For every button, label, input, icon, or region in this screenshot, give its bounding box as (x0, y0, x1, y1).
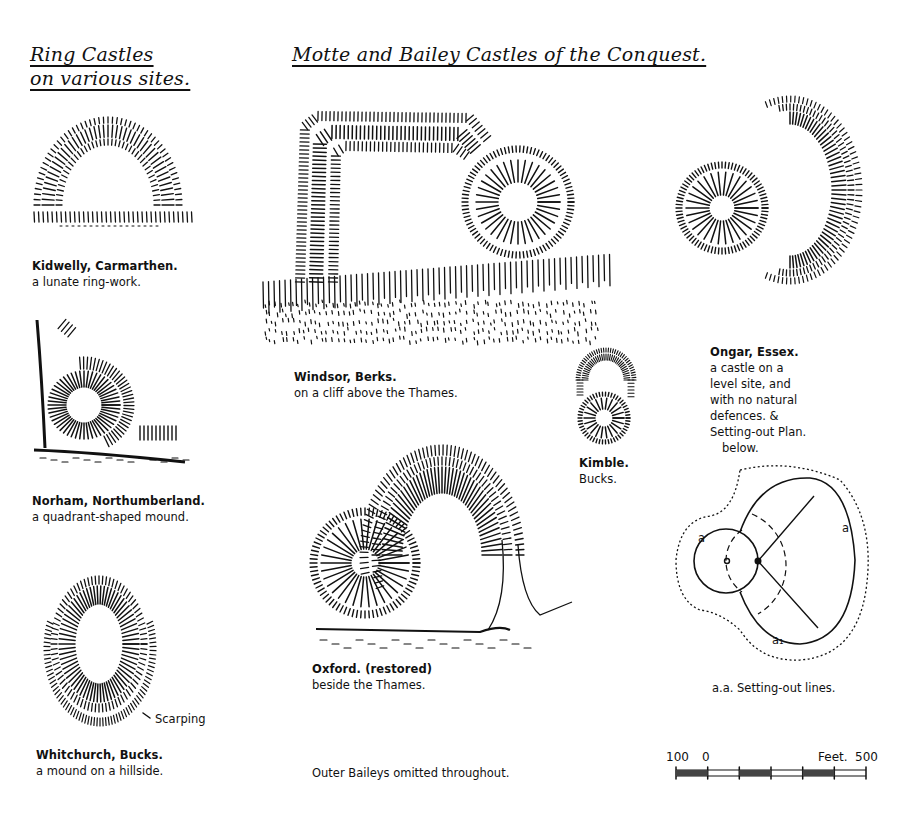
caption-windsor-title: Windsor, Berks. (294, 369, 458, 385)
scale-bar (676, 767, 866, 779)
label-a1-bottom: a₁ (772, 632, 784, 648)
setting-out-plan (676, 466, 868, 660)
caption-setting-out-text: a.a. Setting-out lines. (712, 680, 836, 696)
scale-label-unit: Feet. (818, 750, 848, 764)
caption-whitchurch-subtitle: a mound on a hillside. (36, 763, 163, 779)
footer-note: Outer Baileys omitted throughout. (312, 766, 509, 780)
caption-setting-out: a.a. Setting-out lines. (712, 680, 836, 696)
norham-plan (34, 319, 189, 462)
caption-oxford-subtitle: beside the Thames. (312, 677, 432, 693)
caption-windsor-subtitle: on a cliff above the Thames. (294, 385, 458, 401)
annotation-scarping: Scarping (155, 711, 205, 727)
caption-norham: Norham, Northumberland. a quadrant-shape… (32, 493, 205, 525)
caption-windsor: Windsor, Berks. on a cliff above the Tha… (294, 369, 458, 401)
caption-kimble-subtitle: Bucks. (579, 471, 629, 487)
caption-oxford-title: Oxford. (restored) (312, 661, 432, 677)
caption-ongar-line1: a castle on a (710, 360, 806, 376)
caption-kidwelly: Kidwelly, Carmarthen. a lunate ring-work… (32, 258, 178, 290)
caption-ongar-line6: below. (710, 440, 806, 456)
caption-ongar-line4: defences. & (710, 408, 806, 424)
caption-ongar-title: Ongar, Essex. (710, 344, 806, 360)
caption-whitchurch: Whitchurch, Bucks. a mound on a hillside… (36, 747, 163, 779)
scale-label-0: 0 (702, 750, 710, 764)
caption-kimble: Kimble. Bucks. (579, 455, 629, 487)
caption-kidwelly-subtitle: a lunate ring-work. (32, 274, 178, 290)
caption-whitchurch-title: Whitchurch, Bucks. (36, 747, 163, 763)
caption-ongar-line2: level site, and (710, 376, 806, 392)
kimble-plan (576, 348, 636, 444)
scale-label-100: 100 (666, 750, 689, 764)
oxford-plan (310, 445, 572, 648)
label-a-right: a (842, 520, 849, 536)
caption-norham-title: Norham, Northumberland. (32, 493, 205, 509)
caption-norham-subtitle: a quadrant-shaped mound. (32, 509, 205, 525)
kidwelly-plan (34, 117, 192, 226)
windsor-plan (263, 112, 610, 345)
caption-ongar: Ongar, Essex. a castle on a level site, … (710, 344, 806, 456)
caption-ongar-line5: Setting-out Plan. (710, 424, 806, 440)
whitchurch-plan (44, 576, 156, 726)
caption-kimble-title: Kimble. (579, 455, 629, 471)
caption-kidwelly-title: Kidwelly, Carmarthen. (32, 258, 178, 274)
annotation-scarping-text: Scarping (155, 711, 205, 727)
label-a-left: a (698, 530, 705, 546)
footer-note-text: Outer Baileys omitted throughout. (312, 766, 509, 780)
ongar-plan (676, 96, 862, 284)
scale-label-500: 500 (855, 750, 878, 764)
caption-oxford: Oxford. (restored) beside the Thames. (312, 661, 432, 693)
caption-ongar-line3: with no natural (710, 392, 806, 408)
